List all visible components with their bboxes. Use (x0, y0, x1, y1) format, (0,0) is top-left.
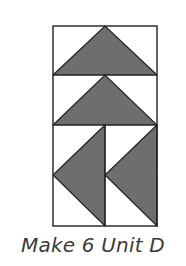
caption: Make 6 Unit D (0, 233, 186, 257)
quilt-block-diagram (52, 25, 158, 227)
